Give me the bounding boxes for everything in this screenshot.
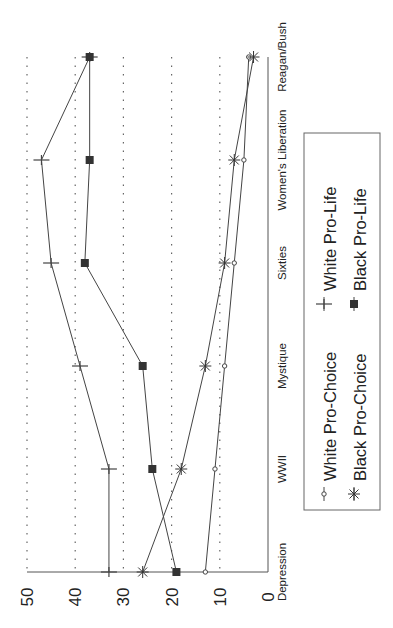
y-tick-label: 10	[211, 588, 230, 607]
data-point-black-pro-life	[86, 156, 94, 164]
data-point-black-pro-life	[86, 53, 94, 61]
category-label: Women's Liberation	[276, 109, 288, 210]
data-point-black-pro-life	[172, 568, 180, 576]
data-point-black-pro-choice	[175, 463, 187, 475]
axes	[27, 57, 268, 572]
data-point-black-pro-choice	[137, 566, 149, 578]
data-point-white-pro-life	[101, 464, 117, 474]
data-point-black-pro-life	[148, 465, 156, 473]
category-labels: DepressionWWIIMystiqueSixtiesWomen's Lib…	[276, 22, 288, 601]
data-point-white-pro-choice	[232, 261, 236, 265]
grid-lines	[27, 57, 220, 572]
y-tick-labels: 01020304050	[18, 588, 278, 607]
legend-label: Black Pro-Choice	[351, 354, 369, 481]
series-line-black-pro-life	[85, 57, 177, 572]
category-label: WWII	[276, 455, 288, 483]
data-point-black-pro-choice	[219, 257, 231, 269]
legend: White Pro-ChoiceWhite Pro-LifeBlack Pro-…	[304, 133, 380, 510]
legend-item-black-pro-choice: Black Pro-Choice	[348, 354, 369, 501]
legend-item-white-pro-choice: White Pro-Choice	[321, 352, 339, 501]
legend-label: White Pro-Life	[321, 186, 339, 291]
data-point-white-pro-choice	[203, 570, 207, 574]
category-label: Depression	[276, 543, 288, 601]
series-white-pro-life	[33, 52, 116, 577]
legend-marker-white-pro-choice	[322, 492, 326, 496]
category-label: Reagan/Bush	[276, 22, 288, 92]
y-tick-label: 20	[163, 588, 182, 607]
series-line-white-pro-choice	[205, 57, 248, 572]
category-label: Sixties	[276, 246, 288, 280]
data-point-black-pro-choice	[248, 51, 260, 63]
legend-label: White Pro-Choice	[321, 352, 339, 481]
legend-marker-black-pro-choice	[348, 488, 360, 500]
data-point-white-pro-life	[43, 258, 59, 268]
data-point-white-pro-life	[101, 567, 117, 577]
y-tick-label: 30	[114, 588, 133, 607]
y-tick-label: 40	[66, 588, 85, 607]
data-point-black-pro-life	[139, 362, 147, 370]
data-point-white-pro-life	[72, 361, 88, 371]
data-point-white-pro-choice	[213, 467, 217, 471]
data-point-white-pro-choice	[242, 158, 246, 162]
y-tick-label: 50	[18, 588, 37, 607]
series-white-pro-choice	[203, 55, 251, 574]
legend-label: Black Pro-Life	[351, 188, 369, 291]
line-chart: 01020304050 DepressionWWIIMystiqueSixtie…	[0, 0, 393, 628]
data-point-white-pro-choice	[222, 364, 226, 368]
data-point-black-pro-choice	[228, 154, 240, 166]
data-point-white-pro-life	[33, 155, 49, 165]
series-black-pro-choice	[137, 51, 260, 578]
category-label: Mystique	[276, 343, 288, 389]
series-line-black-pro-choice	[143, 57, 254, 572]
data-point-black-pro-life	[81, 259, 89, 267]
series-group	[33, 51, 259, 578]
legend-marker-black-pro-life	[350, 300, 358, 308]
series-black-pro-life	[81, 53, 181, 576]
data-point-black-pro-choice	[199, 360, 211, 372]
